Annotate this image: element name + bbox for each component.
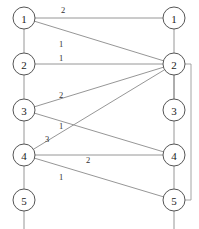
node-label-right-4: 4 xyxy=(171,150,177,162)
vertical-spines-group xyxy=(24,18,174,229)
node-left-2[interactable]: 2 xyxy=(13,53,35,75)
node-left-3[interactable]: 3 xyxy=(13,99,35,121)
node-right-1[interactable]: 1 xyxy=(163,7,185,29)
node-label-right-3: 3 xyxy=(171,105,177,117)
edge-weight-label-L1-R1: 2 xyxy=(61,5,65,15)
node-left-1[interactable]: 1 xyxy=(13,7,35,29)
edge-weight-label-L2-R2: 1 xyxy=(59,53,63,63)
node-label-left-3: 3 xyxy=(21,105,27,117)
edges-group xyxy=(33,18,174,197)
edge-weight-label-L3-R2: 2 xyxy=(59,90,63,100)
edge-L1-R2 xyxy=(35,21,164,61)
graph-svg: 21121321 1234512345 xyxy=(0,0,199,229)
edge-L4-R2 xyxy=(33,70,164,150)
edge-weight-label-L4-R2: 3 xyxy=(45,134,49,144)
right-bracket-group xyxy=(185,64,191,200)
node-label-left-2: 2 xyxy=(21,59,27,71)
node-left-4[interactable]: 4 xyxy=(13,144,35,166)
edge-weight-label-L1-R2: 1 xyxy=(59,39,63,49)
edge-L4-R5 xyxy=(35,158,164,197)
node-label-right-5: 5 xyxy=(171,195,177,207)
edge-weight-label-L4-R4: 2 xyxy=(86,155,90,165)
node-label-left-1: 1 xyxy=(21,13,27,25)
node-right-4[interactable]: 4 xyxy=(163,144,185,166)
node-label-left-5: 5 xyxy=(21,195,27,207)
node-label-right-1: 1 xyxy=(171,13,177,25)
edge-L3-R4 xyxy=(35,113,164,152)
node-label-right-2: 2 xyxy=(171,59,177,71)
node-right-2[interactable]: 2 xyxy=(163,53,185,75)
node-right-5[interactable]: 5 xyxy=(163,189,185,211)
edge-weight-label-L4-R5: 1 xyxy=(59,172,63,182)
edge-weight-label-L3-R4: 1 xyxy=(59,121,63,131)
graph-diagram-canvas: 21121321 1234512345 xyxy=(0,0,199,229)
edge-L3-R2 xyxy=(35,67,164,107)
right-bracket xyxy=(185,64,191,200)
node-label-left-4: 4 xyxy=(21,150,27,162)
node-left-5[interactable]: 5 xyxy=(13,189,35,211)
node-right-3[interactable]: 3 xyxy=(163,99,185,121)
